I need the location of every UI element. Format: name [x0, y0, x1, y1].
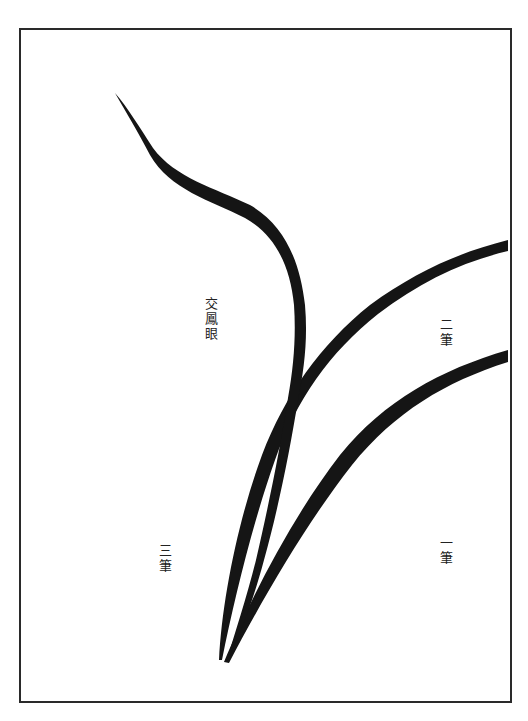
label-stroke-two: 二筆: [438, 318, 452, 348]
label-stroke-one: 一筆: [438, 536, 452, 566]
label-crossing-phoenix-eye: 交鳳眼: [203, 297, 217, 342]
orchid-leaf-strokes: [0, 0, 528, 721]
leaf-stroke-one: [224, 350, 508, 663]
label-stroke-three: 三筆: [157, 544, 171, 574]
